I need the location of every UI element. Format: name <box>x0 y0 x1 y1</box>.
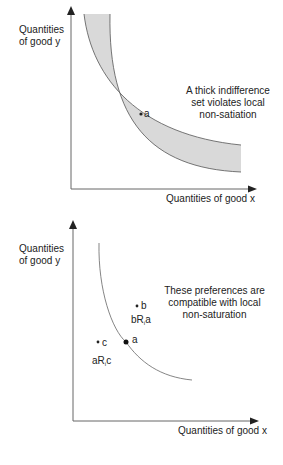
bottom-point-c-dot <box>97 341 100 344</box>
bottom-panel-graph <box>69 220 259 425</box>
bottom-annotation-line1: These preferences are <box>162 285 267 297</box>
bottom-point-b-label: b <box>141 300 147 312</box>
top-y-axis-arrow-icon <box>67 6 75 15</box>
top-annotation-line2: set violates local <box>178 97 278 109</box>
top-annotation-line1: A thick indifference <box>178 85 278 97</box>
top-annotation-line3: non-satiation <box>178 109 278 121</box>
relation-b-over-a: bRia <box>131 314 151 329</box>
diagram-canvas <box>0 0 283 465</box>
relation-a-over-c: aRic <box>92 355 111 370</box>
top-x-axis-label: Quantities of good x <box>166 193 255 205</box>
bottom-point-a-label: a <box>132 334 138 346</box>
bottom-annotation-line3: non-saturation <box>162 309 267 321</box>
bottom-point-a-dot <box>124 340 129 345</box>
relation-a-suffix: c <box>106 355 111 366</box>
top-y-axis-label: Quantities of good y <box>19 24 64 48</box>
bottom-x-axis-label: Quantities of good x <box>178 425 267 437</box>
bottom-point-b-dot <box>136 305 139 308</box>
top-y-label-line2: of good y <box>19 36 64 48</box>
relation-b-suffix: a <box>145 314 151 325</box>
bottom-annotation: These preferences are compatible with lo… <box>162 285 267 321</box>
top-point-a-label: a <box>144 108 150 120</box>
top-point-a-dot <box>139 112 142 115</box>
bottom-x-axis-arrow-icon <box>250 418 259 425</box>
top-x-axis-arrow-icon <box>248 186 257 193</box>
bottom-y-label-line1: Quantities <box>19 243 64 255</box>
bottom-y-axis-arrow-icon <box>69 220 77 229</box>
top-annotation: A thick indifference set violates local … <box>178 85 278 121</box>
bottom-y-axis-label: Quantities of good y <box>19 243 64 267</box>
relation-a-prefix: aR <box>92 355 105 366</box>
bottom-annotation-line2: compatible with local <box>162 297 267 309</box>
bottom-point-c-label: c <box>102 337 107 349</box>
top-y-label-line1: Quantities <box>19 24 64 36</box>
bottom-y-label-line2: of good y <box>19 255 64 267</box>
relation-b-prefix: bR <box>131 314 144 325</box>
